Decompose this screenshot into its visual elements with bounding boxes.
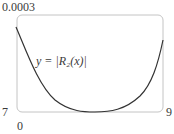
- y-max-tick-label: 0.0003: [2, 1, 35, 13]
- curve-annotation: y = |R₂(x)|: [36, 55, 87, 67]
- chart-plot: [0, 0, 174, 134]
- y-min-tick-label: 0: [17, 120, 23, 132]
- x-max-tick-label: 9: [166, 106, 172, 118]
- x-min-tick-label: 7: [2, 106, 8, 118]
- curve-line: [16, 27, 163, 112]
